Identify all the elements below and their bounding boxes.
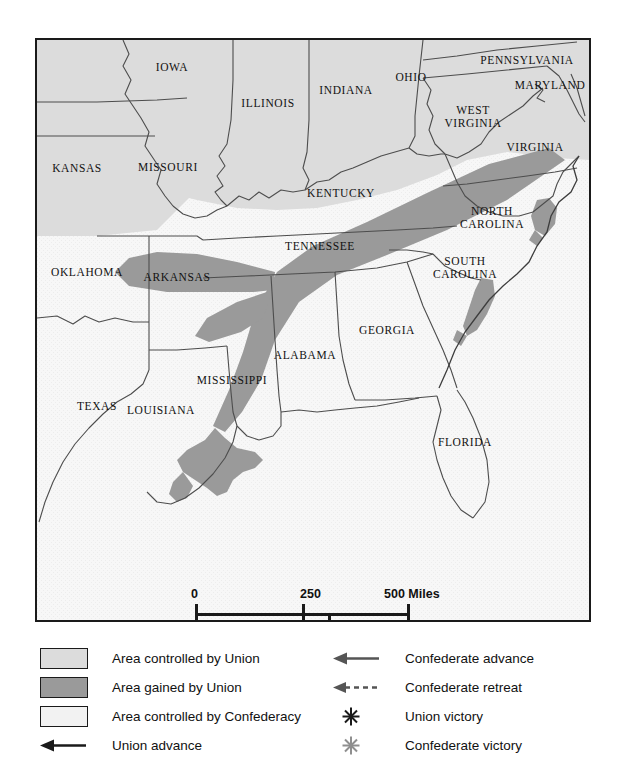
legend-label: Area controlled by Confederacy [112,709,301,724]
legend-label: Confederate advance [405,651,534,666]
legend-item-union-controlled: Area controlled by Union [40,645,260,671]
arrow-solid-icon [333,648,381,669]
legend-item-confederate-retreat: Confederate retreat [333,674,522,700]
legend-label: Area gained by Union [112,680,242,695]
legend-label: Union victory [405,709,483,724]
swatch-union-icon [40,648,88,669]
swatch-confederacy-icon [40,706,88,727]
legend-item-confederate-advance: Confederate advance [333,645,534,671]
legend-label: Confederate victory [405,738,522,753]
arrow-solid-icon [40,735,88,756]
scale-miles-end: 500 Miles [384,587,440,601]
swatch-gained-icon [40,677,88,698]
legend-item-union-gained: Area gained by Union [40,674,242,700]
legend-label: Union advance [112,738,202,753]
star-dark-icon [333,706,381,727]
scale-bar: 0 250 500 Miles 0 500 Kilometers [195,587,455,622]
legend-label: Confederate retreat [405,680,522,695]
arrow-dashed-icon [333,677,381,698]
scale-tick-250-miles [302,604,305,622]
scale-tick-500-km [328,613,331,622]
scale-miles-mid: 250 [300,587,321,601]
legend-label: Area controlled by Union [112,651,260,666]
map-frame: IOWA ILLINOIS INDIANA OHIO PENNSYLVANIA … [35,38,591,622]
map-legend: Area controlled by Union Area gained by … [40,645,600,757]
legend-item-confederacy-controlled: Area controlled by Confederacy [40,703,301,729]
legend-item-confederate-victory: Confederate victory [333,732,522,758]
legend-item-union-victory: Union victory [333,703,483,729]
legend-item-union-advance: Union advance [40,732,202,758]
star-light-icon [333,735,381,756]
map-illustration [37,40,589,620]
scale-tick-500-miles [407,604,410,622]
scale-miles-start: 0 [191,587,198,601]
scale-tick-0-km [195,613,198,622]
